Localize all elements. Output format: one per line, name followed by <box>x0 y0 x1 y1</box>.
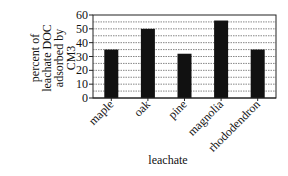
bar-rhododendron <box>251 50 265 98</box>
y-tick-label: 30 <box>76 50 88 64</box>
x-axis-label: leachate <box>148 153 187 168</box>
x-tick-label: pine <box>165 97 190 122</box>
y-tick-label: 0 <box>82 91 88 105</box>
y-tick-label: 40 <box>76 36 88 50</box>
bar-pine <box>178 54 192 98</box>
bar-magnolia <box>214 21 228 98</box>
y-tick-label: 60 <box>76 8 88 22</box>
bar-chart: 0102030405060mapleoakpinemagnoliarhodode… <box>0 0 288 176</box>
y-tick-label: 10 <box>76 77 88 91</box>
bar-maple <box>104 50 118 98</box>
y-tick-label: 50 <box>76 22 88 36</box>
bar-oak <box>141 29 155 98</box>
y-tick-label: 20 <box>76 63 88 77</box>
x-tick-label: oak <box>131 97 153 119</box>
x-tick-label: maple <box>86 97 117 128</box>
